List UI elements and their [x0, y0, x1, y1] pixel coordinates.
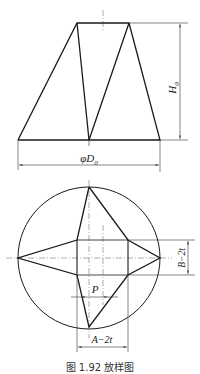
inner-triangle-lines: [77, 23, 129, 140]
pitch-label: P: [91, 283, 99, 295]
figure-caption: 图 1.92 放样图: [66, 361, 135, 373]
lofting-drawing: H0 φD0 B−2t P A−2t 图 1.92 放样图: [0, 0, 200, 374]
height-label: H0: [166, 82, 181, 95]
inner-rectangle: [77, 240, 128, 275]
front-view: H0 φD0: [18, 10, 188, 172]
width-label: B−2t: [177, 248, 187, 268]
top-view: B−2t P A−2t: [6, 180, 195, 352]
trapezoid-outline: [18, 23, 160, 140]
length-label: A−2t: [91, 334, 113, 345]
